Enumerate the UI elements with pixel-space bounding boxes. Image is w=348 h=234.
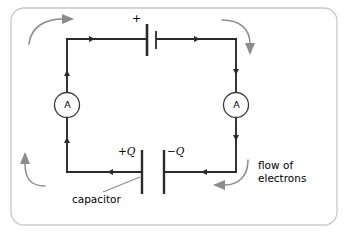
flow-arrowhead-bottom-left [107,169,113,175]
flow-arrowhead-bottom-right [201,169,207,175]
electron-flow-caption-line-1: flow of [258,159,306,172]
circuit-diagram-figure: + A A +Q −Q capacitor flow of electrons [0,0,348,234]
electron-flow-arrowhead-bottom-left [20,152,30,164]
flow-arrowhead-right-upper [233,69,239,75]
capacitor-positive-charge-label: +Q [118,146,135,157]
capacitor-negative-charge-label: −Q [167,146,184,157]
flow-arrowhead-left-lower [64,137,70,143]
capacitor-caption-leader-line [103,177,140,192]
battery-polarity-label: + [132,13,141,24]
flow-arrowhead-top-left [89,36,95,42]
electron-flow-arrowhead-bottom-right [213,180,225,190]
ammeter-right-label: A [232,100,241,110]
electron-flow-caption-line-2: electrons [258,172,306,185]
figure-border [11,8,337,225]
capacitor-caption: capacitor [72,194,121,205]
electron-flow-arrow-top-left [29,19,63,44]
electron-flow-caption: flow of electrons [258,159,306,185]
electron-flow-arrowhead-top-left [62,14,74,24]
flow-arrowhead-left-upper [64,70,70,76]
ammeter-left-label: A [63,100,72,110]
electron-flow-arrow-bottom-left [25,163,45,186]
flow-arrowhead-top-right [194,36,200,42]
flow-arrowhead-right-lower [233,135,239,141]
electron-flow-arrowhead-top-right [245,43,255,55]
